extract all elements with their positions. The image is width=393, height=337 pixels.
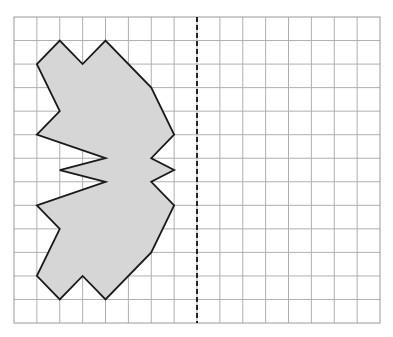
grid-figure xyxy=(0,0,393,337)
reflection-diagram xyxy=(0,0,393,337)
shaded-polygon xyxy=(37,41,174,300)
